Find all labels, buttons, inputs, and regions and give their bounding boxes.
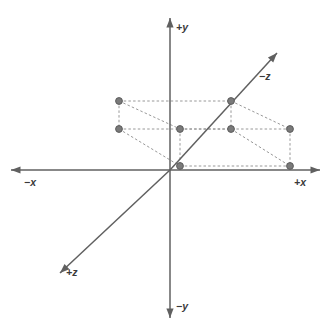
data-point-front-bottom-left[interactable]: front-bottom-left [177,163,184,170]
positive-y-axis-label: +y [176,21,188,33]
diagram-canvas: back-top-leftback-bottom-leftback-top-ri… [0,0,329,332]
data-point-back-bottom-right[interactable]: back-bottom-right [228,126,235,133]
negative-y-axis-label: −y [176,300,188,312]
data-point-back-bottom-left[interactable]: back-bottom-left [116,126,123,133]
positive-y-axis-arrowhead [166,18,173,28]
data-point-front-bottom-right[interactable]: front-bottom-right [287,163,294,170]
data-point-back-top-right[interactable]: back-top-right [228,98,235,105]
negative-x-axis-label: −x [24,176,36,188]
positive-z-axis-label: +z [66,266,78,278]
positive-x-axis-arrowhead [311,166,321,173]
box-edge [119,129,180,166]
data-point-group: back-top-leftback-bottom-leftback-top-ri… [116,98,294,170]
positive-x-axis-label: +x [294,176,306,188]
negative-y-axis-arrowhead [166,309,173,319]
box-edge [231,129,290,166]
box-edge-group [119,101,290,166]
coordinate-diagram: back-top-leftback-bottom-leftback-top-ri… [0,0,329,332]
box-edge [231,101,290,129]
negative-x-axis-arrowhead [11,166,21,173]
positive-z-axis-line [60,170,170,273]
data-point-back-top-left[interactable]: back-top-left [116,98,123,105]
negative-z-axis-label: −z [259,70,271,82]
axis-group [11,18,320,318]
data-point-front-top-right[interactable]: front-top-right [287,126,294,133]
data-point-front-top-left[interactable]: front-top-left [177,126,184,133]
box-edge [119,101,180,129]
